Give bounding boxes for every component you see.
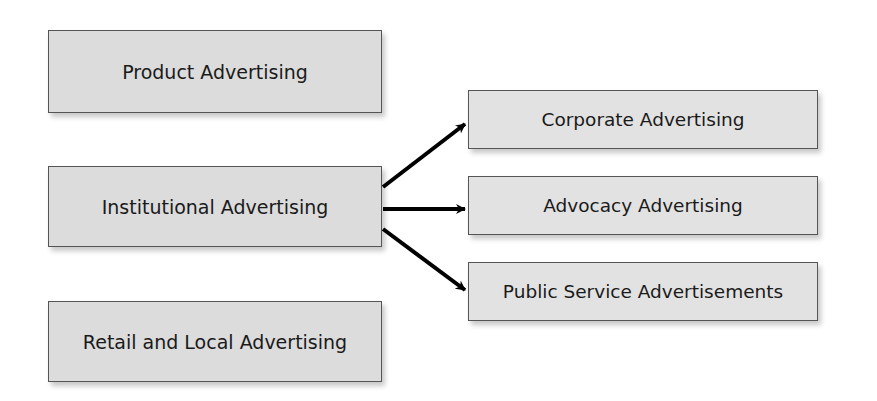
connector-arrows	[0, 0, 877, 401]
arrow-to-public-service	[383, 229, 465, 290]
arrow-to-corporate	[383, 124, 465, 187]
